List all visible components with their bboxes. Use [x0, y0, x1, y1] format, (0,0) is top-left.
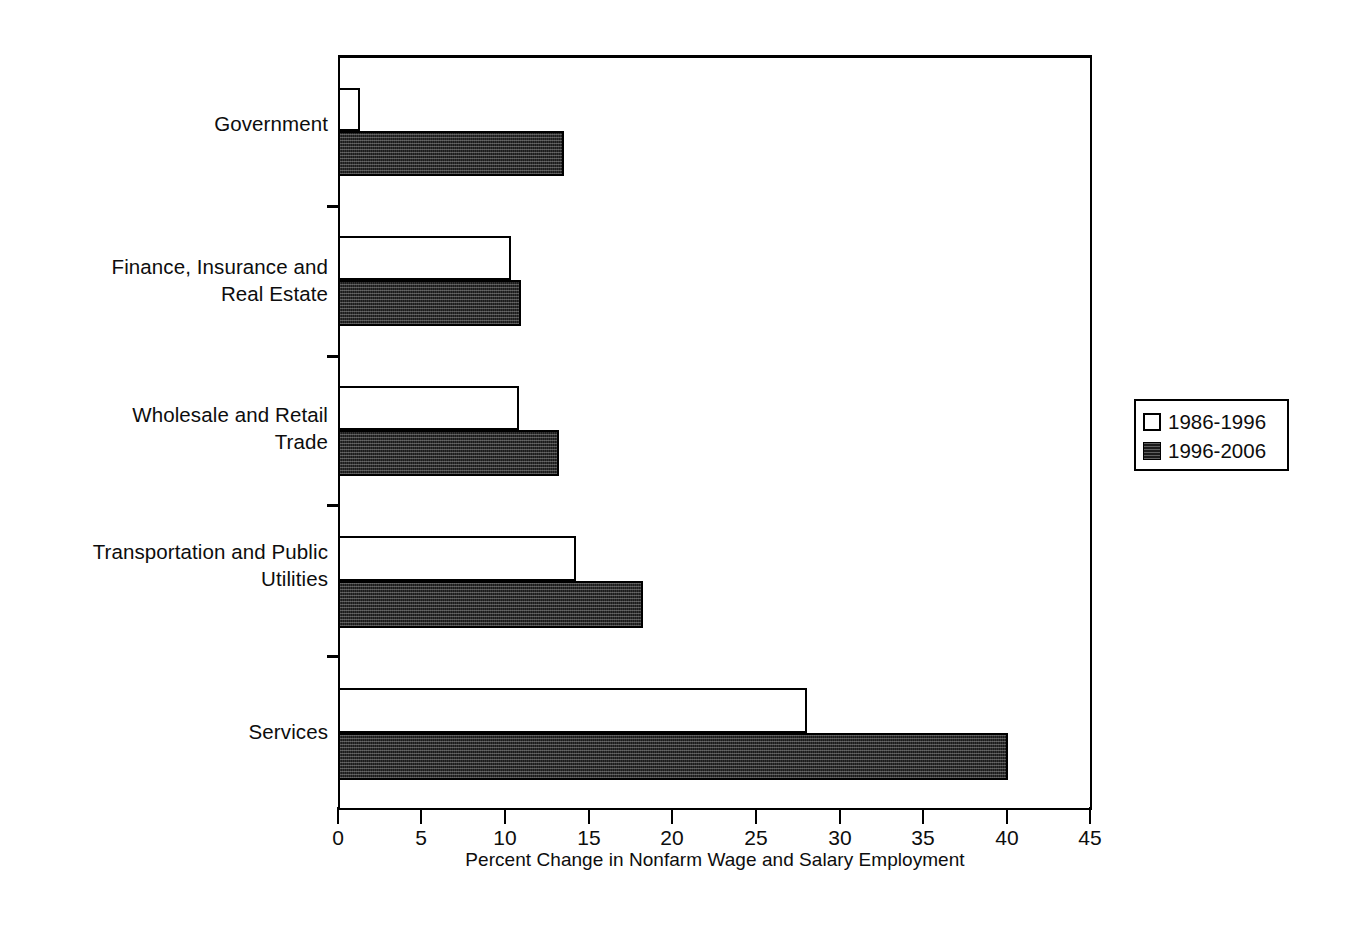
legend-label-1996-2006: 1996-2006: [1168, 441, 1266, 461]
x-tick-label-30: 30: [810, 826, 870, 850]
category-tick-1: [327, 205, 339, 208]
category-label-wholesale-retail-trade: Wholesale and Retail Trade: [132, 401, 328, 455]
bar-finance-1996-2006: [338, 280, 521, 326]
x-tick-label-0: 0: [308, 826, 368, 850]
x-tick-label-10: 10: [475, 826, 535, 850]
x-tick-label-5: 5: [391, 826, 451, 850]
category-label-services: Services: [249, 718, 328, 745]
bar-transportation-1986-1996: [338, 536, 576, 581]
x-tick-label-35: 35: [893, 826, 953, 850]
x-tick-5: [420, 810, 422, 824]
bar-government-1996-2006: [338, 131, 564, 176]
x-tick-20: [671, 810, 673, 824]
x-tick-40: [1006, 810, 1008, 824]
x-tick-label-40: 40: [977, 826, 1037, 850]
open-square-icon: [1143, 413, 1161, 431]
category-label-government: Government: [214, 110, 328, 137]
x-tick-label-15: 15: [559, 826, 619, 850]
category-label-finance-insurance-real-estate: Finance, Insurance and Real Estate: [112, 253, 328, 307]
x-tick-10: [504, 810, 506, 824]
x-axis-title: Percent Change in Nonfarm Wage and Salar…: [338, 849, 1092, 871]
legend-label-1986-1996: 1986-1996: [1168, 412, 1266, 432]
bar-government-1986-1996: [338, 88, 360, 131]
category-tick-3: [327, 504, 339, 507]
legend: 1986-1996 1996-2006: [1134, 399, 1289, 471]
category-tick-2: [327, 355, 339, 358]
category-label-transportation-public-utilities: Transportation and Public Utilities: [93, 538, 328, 592]
legend-entry-1996-2006: 1996-2006: [1143, 436, 1280, 465]
filled-square-icon: [1143, 442, 1161, 460]
category-tick-4: [327, 655, 339, 658]
bar-services-1996-2006: [338, 733, 1008, 780]
x-tick-25: [755, 810, 757, 824]
x-tick-30: [839, 810, 841, 824]
legend-entry-1986-1996: 1986-1996: [1143, 407, 1280, 436]
bar-wholesale-retail-1996-2006: [338, 430, 559, 476]
x-tick-0: [337, 807, 339, 824]
x-tick-label-20: 20: [642, 826, 702, 850]
bar-chart: Government Finance, Insurance and Real E…: [0, 0, 1358, 928]
bar-wholesale-retail-1986-1996: [338, 386, 519, 430]
bar-services-1986-1996: [338, 688, 807, 733]
x-tick-label-25: 25: [726, 826, 786, 850]
x-tick-label-45: 45: [1060, 826, 1120, 850]
bar-transportation-1996-2006: [338, 581, 643, 628]
bar-finance-1986-1996: [338, 236, 511, 280]
x-tick-15: [588, 810, 590, 824]
x-tick-35: [922, 810, 924, 824]
x-tick-45: [1089, 807, 1091, 824]
